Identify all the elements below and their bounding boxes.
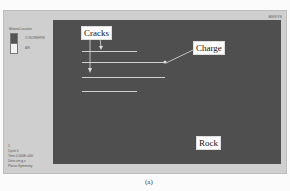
cracks-label: Cracks <box>81 26 112 40</box>
annotation-leaders <box>0 0 290 191</box>
figure-caption: (a) <box>145 178 153 186</box>
rock-label: Rock <box>196 136 221 150</box>
charge-label: Charge <box>193 41 225 55</box>
